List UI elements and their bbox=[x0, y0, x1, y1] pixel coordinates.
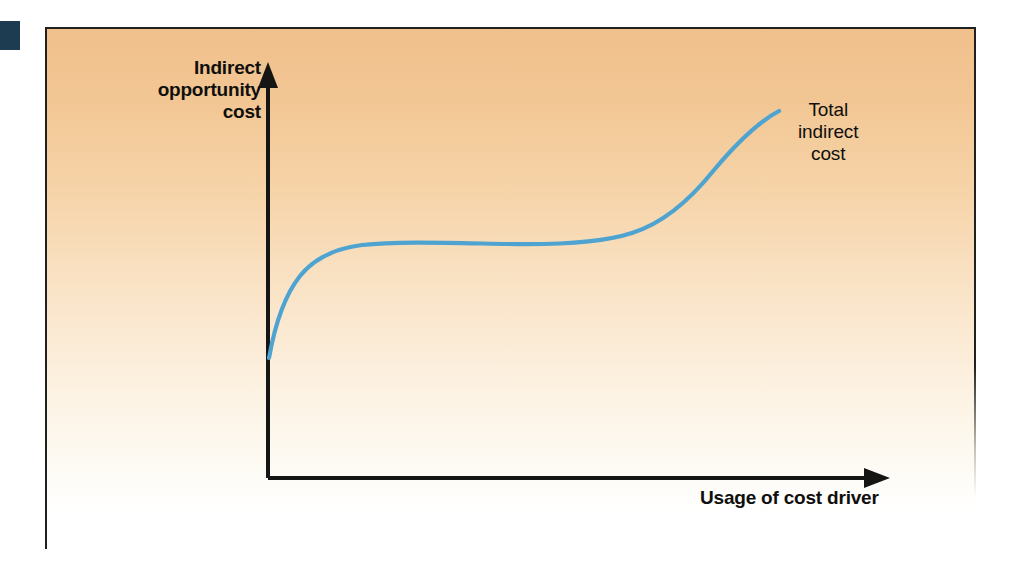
y-axis-arrowhead-icon bbox=[258, 62, 278, 88]
x-axis-arrowhead-icon bbox=[864, 468, 890, 488]
x-axis-label: Usage of cost driver bbox=[700, 487, 879, 509]
curve-series-label: Total indirect cost bbox=[798, 99, 858, 165]
figure-stage: Indirect opportunity cost Usage of cost … bbox=[0, 0, 1021, 570]
total-indirect-cost-curve bbox=[269, 111, 779, 358]
y-axis-label: Indirect opportunity cost bbox=[158, 57, 261, 123]
plot-canvas bbox=[0, 0, 1021, 570]
